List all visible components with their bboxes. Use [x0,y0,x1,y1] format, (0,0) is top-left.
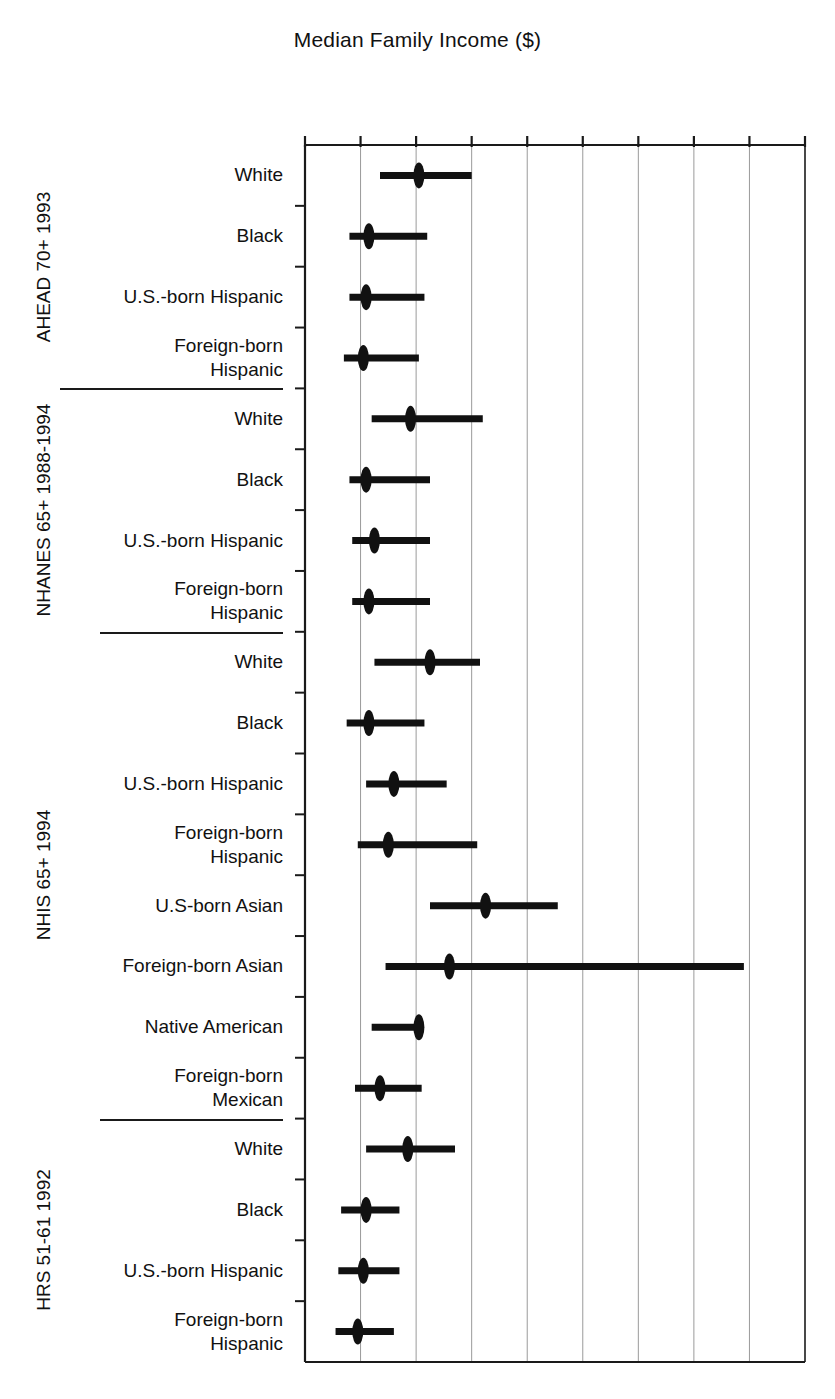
data-row [336,1319,394,1345]
median-marker [388,771,399,797]
median-marker [383,832,394,858]
median-marker [361,1197,372,1223]
median-marker [363,710,374,736]
median-marker [425,649,436,675]
data-row [380,162,472,188]
figure-root: Median Family Income ($) 010,00020,00030… [0,0,835,1399]
data-row [349,467,430,493]
median-marker [413,1014,424,1040]
median-marker [361,284,372,310]
data-row [344,345,419,371]
plot-canvas [0,0,835,1399]
median-marker [413,162,424,188]
data-row [352,588,430,614]
data-row [338,1258,399,1284]
data-row [358,832,477,858]
data-row [366,1136,455,1162]
data-row [366,771,447,797]
data-row [374,649,480,675]
median-marker [358,1258,369,1284]
median-marker [363,588,374,614]
median-marker [361,467,372,493]
data-row [372,1014,425,1040]
median-marker [358,345,369,371]
data-row [347,710,425,736]
data-row [386,953,744,979]
data-row [349,223,427,249]
data-row [341,1197,399,1223]
median-marker [363,223,374,249]
data-row [372,406,483,432]
median-marker [375,1075,386,1101]
median-marker [369,528,380,554]
data-row [352,528,430,554]
median-marker [405,406,416,432]
data-row [430,893,558,919]
median-marker [444,953,455,979]
median-marker [402,1136,413,1162]
median-marker [352,1319,363,1345]
median-marker [480,893,491,919]
data-row [355,1075,422,1101]
